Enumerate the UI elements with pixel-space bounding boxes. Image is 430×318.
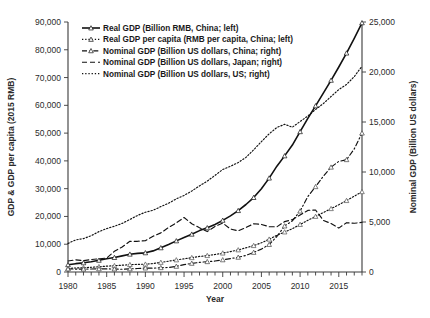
series-marker-0 (360, 21, 365, 25)
series-marker-1 (344, 198, 349, 202)
series-line-2 (68, 133, 362, 269)
series-marker-1 (360, 189, 365, 193)
series-line-4 (68, 66, 362, 243)
right-tick-label: 5,000 (369, 217, 391, 227)
x-tick-label: 1995 (175, 281, 194, 291)
series-marker-1 (159, 260, 164, 264)
left-tick-label: 0 (56, 267, 61, 277)
legend-label-1: Real GDP per capita (RMB per capita, Chi… (103, 35, 293, 44)
x-tick-label: 2000 (213, 281, 232, 291)
series-marker-2 (298, 209, 303, 213)
x-tick-label: 1990 (136, 281, 155, 291)
gdp-line-chart: 010,00020,00030,00040,00050,00060,00070,… (0, 0, 430, 318)
legend-label-4: Nominal GDP (Billion US dollars, US; rig… (103, 70, 270, 79)
left-tick-label: 90,000 (35, 17, 61, 27)
left-tick-label: 50,000 (35, 128, 61, 138)
left-tick-label: 40,000 (35, 156, 61, 166)
series-marker-2 (313, 184, 318, 188)
x-tick-label: 2010 (291, 281, 310, 291)
right-tick-label: 15,000 (369, 117, 395, 127)
series-marker-1 (313, 214, 318, 218)
left-tick-label: 80,000 (35, 45, 61, 55)
chart-container: 010,00020,00030,00040,00050,00060,00070,… (0, 0, 430, 318)
right-tick-label: 0 (369, 267, 374, 277)
legend-label-2: Nominal GDP (Billion US dollars, China; … (103, 47, 281, 56)
legend-label-0: Real GDP (Billion RMB, China; left) (103, 24, 239, 33)
series-marker-1 (329, 206, 334, 210)
right-axis-title: Nominal GDP (Billion US dollars) (408, 81, 418, 214)
legend-marker-2 (89, 49, 94, 53)
x-tick-label: 1985 (97, 281, 116, 291)
series-marker-2 (220, 258, 225, 262)
right-tick-label: 20,000 (369, 67, 395, 77)
x-tick-label: 2005 (252, 281, 271, 291)
left-tick-label: 20,000 (35, 211, 61, 221)
right-tick-label: 25,000 (369, 17, 395, 27)
left-tick-label: 70,000 (35, 73, 61, 83)
series-line-1 (68, 192, 362, 269)
x-tick-label: 2015 (329, 281, 348, 291)
series-marker-1 (298, 222, 303, 226)
series-marker-1 (282, 230, 287, 234)
series-line-3 (68, 210, 362, 261)
x-axis-title: Year (206, 294, 225, 304)
series-marker-2 (360, 131, 365, 135)
left-tick-label: 10,000 (35, 239, 61, 249)
right-tick-label: 10,000 (369, 167, 395, 177)
left-tick-label: 30,000 (35, 184, 61, 194)
left-axis-title: GDP & GDP per capita (2015 RMB) (6, 78, 16, 217)
x-tick-label: 1980 (59, 281, 78, 291)
left-tick-label: 60,000 (35, 100, 61, 110)
legend-label-3: Nominal GDP (Billion US dollars, Japan; … (103, 58, 282, 67)
